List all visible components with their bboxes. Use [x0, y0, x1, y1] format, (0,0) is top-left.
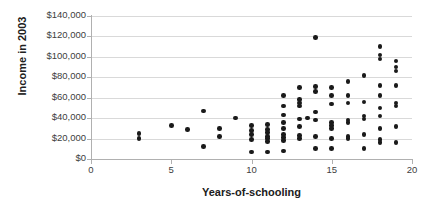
y-axis-tick — [87, 16, 91, 17]
gridline — [91, 57, 412, 58]
data-point — [281, 126, 286, 131]
data-point — [137, 131, 142, 136]
data-point — [329, 146, 334, 151]
x-axis-tick-label: 20 — [397, 164, 427, 175]
data-point — [265, 139, 270, 144]
data-point — [313, 146, 318, 151]
y-axis-tick-label: $140,000 — [30, 10, 86, 20]
data-point — [394, 124, 399, 129]
data-point — [329, 102, 334, 107]
data-point — [394, 104, 399, 109]
data-point — [265, 122, 270, 127]
data-point — [362, 132, 367, 137]
y-axis-tick-label: $80,000 — [30, 71, 86, 81]
data-point — [281, 149, 286, 154]
y-axis-tick-label: $60,000 — [30, 92, 86, 102]
data-point — [346, 120, 351, 125]
data-point — [313, 89, 318, 94]
x-axis-tick-label: 15 — [317, 164, 347, 175]
x-axis-tick — [91, 160, 92, 164]
y-axis-line — [91, 15, 92, 160]
data-point — [394, 59, 399, 64]
data-point — [329, 136, 334, 141]
y-axis-tick — [87, 36, 91, 37]
x-axis-tick — [332, 160, 333, 164]
y-axis-tick — [87, 57, 91, 58]
y-axis-tick-label: $0 — [30, 153, 86, 163]
data-point — [378, 126, 383, 131]
data-point — [378, 106, 383, 111]
data-point — [346, 101, 351, 106]
x-axis-tick — [171, 160, 172, 164]
data-point — [313, 84, 318, 89]
data-point — [394, 83, 399, 88]
y-axis-tick — [87, 118, 91, 119]
data-point — [217, 126, 222, 131]
data-point — [362, 117, 367, 122]
data-point — [313, 110, 318, 115]
data-point — [305, 116, 310, 121]
data-point — [346, 136, 351, 141]
data-point — [313, 118, 318, 123]
y-axis-tick-labels: $0$20,000$40,000$60,000$80,000$100,000$1… — [26, 0, 86, 170]
x-axis-tick-label: 0 — [76, 164, 106, 175]
y-axis-tick — [87, 139, 91, 140]
data-point — [378, 57, 383, 62]
data-point — [265, 150, 270, 155]
data-point — [249, 137, 254, 142]
data-point — [378, 44, 383, 49]
data-point — [394, 69, 399, 74]
y-axis-tick — [87, 98, 91, 99]
gridline — [91, 16, 412, 17]
data-point — [362, 146, 367, 151]
data-point — [169, 123, 174, 128]
gridline — [91, 36, 412, 37]
data-point — [297, 124, 302, 129]
data-point — [378, 140, 383, 145]
data-point — [329, 93, 334, 98]
gridline — [91, 98, 412, 99]
data-point — [201, 109, 206, 114]
plot-area — [91, 16, 412, 159]
data-point — [249, 132, 254, 137]
scatter-chart: Income in 2003 $0$20,000$40,000$60,000$8… — [0, 0, 430, 217]
data-point — [281, 138, 286, 143]
data-point — [297, 104, 302, 109]
y-axis-tick-label: $120,000 — [30, 30, 86, 40]
y-axis-tick-label: $40,000 — [30, 112, 86, 122]
data-point — [329, 85, 334, 90]
data-point — [217, 134, 222, 139]
data-point — [329, 126, 334, 131]
data-point — [394, 140, 399, 145]
data-point — [281, 113, 286, 118]
data-point — [281, 104, 286, 109]
data-point — [297, 85, 302, 90]
data-point — [362, 73, 367, 78]
y-axis-tick-label: $20,000 — [30, 133, 86, 143]
y-axis-tick — [87, 77, 91, 78]
data-point — [249, 123, 254, 128]
x-axis-tick — [412, 160, 413, 164]
data-point — [281, 93, 286, 98]
x-axis-title: Years-of-schooling — [91, 186, 412, 198]
data-point — [313, 35, 318, 40]
data-point — [137, 136, 142, 141]
data-point — [201, 144, 206, 149]
data-point — [378, 93, 383, 98]
data-point — [297, 117, 302, 122]
data-point — [185, 127, 190, 132]
data-point — [249, 150, 254, 155]
data-point — [378, 83, 383, 88]
data-point — [346, 79, 351, 84]
x-axis-tick-label: 5 — [156, 164, 186, 175]
data-point — [233, 116, 238, 121]
data-point — [281, 120, 286, 125]
data-point — [362, 100, 367, 105]
x-axis-tick-label: 10 — [237, 164, 267, 175]
data-point — [346, 93, 351, 98]
x-axis-tick — [252, 160, 253, 164]
data-point — [313, 134, 318, 139]
data-point — [297, 136, 302, 141]
y-axis-tick-label: $100,000 — [30, 51, 86, 61]
